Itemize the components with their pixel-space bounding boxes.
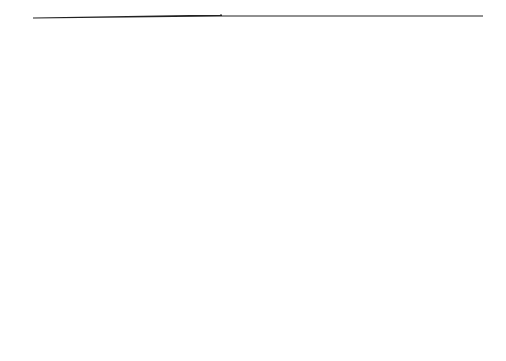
diagram-outer-frame	[25, 17, 231, 165]
outer-boundary-box	[25, 16, 231, 166]
outer-container	[25, 17, 231, 166]
frame	[25, 17, 231, 166]
container-frame	[25, 17, 462, 165]
frame-border	[25, 17, 231, 165]
outer-boundary-line	[33, 15, 483, 18]
outer-frame-visible	[25, 17, 231, 166]
outer-rect	[25, 17, 230, 166]
diagram-frame-rounded	[25, 17, 462, 165]
diagram-border	[25, 17, 462, 165]
outer-frame-drawn	[26, 17, 231, 165]
outer-frame-border	[25, 17, 462, 165]
er-diagram	[0, 0, 506, 361]
diagram-frame	[25, 17, 231, 166]
main-frame	[25, 17, 231, 166]
outer-boundary	[25, 18, 222, 156]
outer-boundary-frame	[25, 18, 230, 166]
visible-outer-frame	[26, 18, 231, 166]
outer-frame-rect	[25, 17, 230, 165]
boundary	[25, 17, 463, 164]
outer-frame-final	[25, 17, 231, 165]
outer-boundary-rect	[26, 18, 231, 166]
frame-final	[26, 18, 231, 166]
outer-frame-rounded	[25, 17, 231, 165]
whole-diagram-frame	[26, 18, 231, 166]
diagram-container-frame	[25, 17, 231, 165]
outer-frame-main	[25, 16, 231, 165]
